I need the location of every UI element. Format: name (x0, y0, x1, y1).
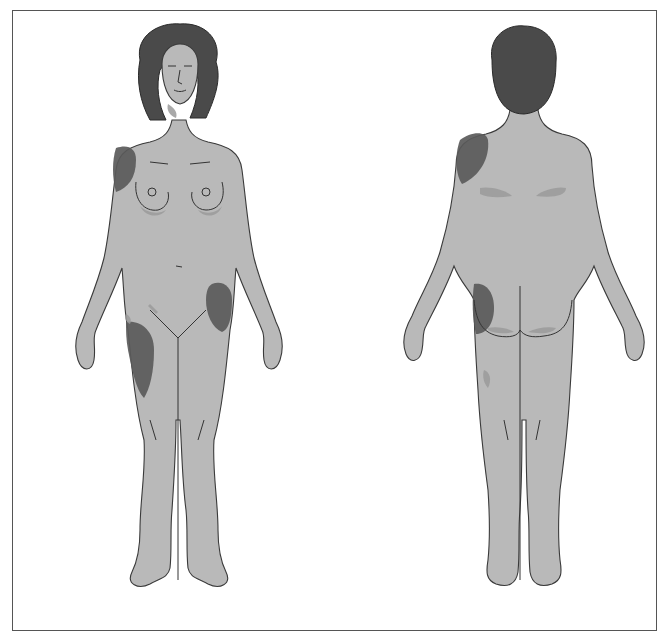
front-body (76, 120, 282, 586)
front-figure (76, 24, 282, 587)
back-body (404, 110, 644, 586)
back-figure (404, 26, 644, 586)
back-hair (491, 26, 556, 114)
front-face (162, 44, 198, 104)
body-diagram (0, 0, 664, 638)
lesion-front-neck (167, 104, 176, 118)
